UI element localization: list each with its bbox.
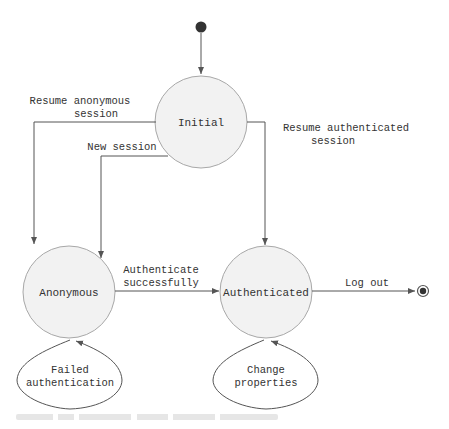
transition-resume-authenticated bbox=[247, 122, 265, 245]
state-initial-label: Initial bbox=[178, 117, 224, 129]
change-props-label-1: Change bbox=[247, 364, 285, 376]
initial-pseudo-state bbox=[196, 22, 207, 33]
state-diagram: Initial Anonymous Authenticated Resume a… bbox=[0, 0, 449, 429]
state-initial: Initial bbox=[155, 76, 247, 168]
log-out-label: Log out bbox=[345, 277, 389, 289]
resume-authenticated-label-1: Resume authenticated bbox=[283, 122, 409, 134]
transition-new-session bbox=[101, 156, 168, 258]
figure-caption-faded bbox=[16, 414, 278, 420]
state-anonymous-label: Anonymous bbox=[39, 287, 98, 299]
state-anonymous: Anonymous bbox=[23, 246, 115, 338]
new-session-label: New session bbox=[87, 141, 156, 153]
failed-auth-label-2: authentication bbox=[26, 377, 114, 389]
resume-authenticated-label-2: session bbox=[311, 135, 355, 147]
failed-auth-label-1: Failed bbox=[51, 364, 89, 376]
resume-anonymous-label-2: session bbox=[74, 108, 118, 120]
state-authenticated: Authenticated bbox=[220, 246, 312, 338]
authenticate-label-1: Authenticate bbox=[123, 264, 199, 276]
authenticate-label-2: successfully bbox=[123, 277, 199, 289]
change-props-label-2: properties bbox=[234, 377, 297, 389]
final-pseudo-state bbox=[418, 286, 429, 297]
resume-anonymous-label-1: Resume anonymous bbox=[30, 95, 131, 107]
state-authenticated-label: Authenticated bbox=[223, 287, 309, 299]
